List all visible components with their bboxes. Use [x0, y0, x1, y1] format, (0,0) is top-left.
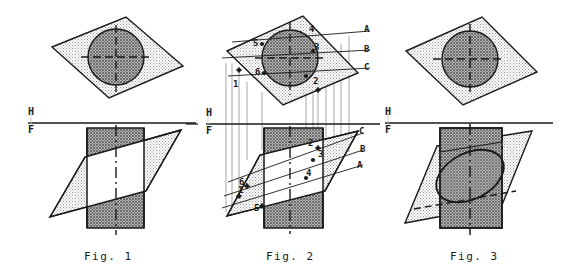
fig2-front-label-2: 2 — [308, 138, 315, 148]
fig2-top-label-3: 3 — [314, 42, 321, 52]
fig1-front-view — [50, 125, 181, 235]
fig2-front-label-5: 5 — [254, 203, 261, 213]
fig3-fold-label-f: F — [385, 124, 393, 135]
fig2-top-label-5: 5 — [253, 38, 260, 48]
fig2-front-label-b: B — [360, 144, 367, 154]
fig2-top-label-4: 4 — [309, 24, 316, 34]
fig2-front-label-4: 4 — [306, 168, 313, 178]
fig2-top-label-c: C — [364, 62, 371, 72]
fig1-fold-label-f: F — [28, 124, 36, 135]
fig2-top-point-5 — [260, 42, 264, 46]
drawing-plate: H F H F H F 1 2 3 4 5 6 A B C 1 2 3 4 5 … — [0, 0, 576, 279]
fig3-caption: Fig. 3 — [450, 250, 499, 263]
figure-3 — [385, 17, 553, 235]
fig2-top-label-6: 6 — [255, 67, 262, 77]
fig2-front-label-3: 3 — [318, 149, 325, 159]
plate-canvas — [0, 0, 576, 279]
fig2-front-point-3 — [311, 158, 315, 162]
fig1-caption: Fig. 1 — [84, 250, 133, 263]
fig2-front-label-a: A — [357, 160, 364, 170]
fig2-top-label-b: B — [364, 44, 371, 54]
fig2-front-label-c: C — [359, 126, 366, 136]
fig1-top-view — [52, 17, 183, 98]
fig2-fold-label-h: H — [206, 107, 214, 118]
fig2-top-point-4 — [304, 74, 308, 78]
fig2-caption: Fig. 2 — [266, 250, 315, 263]
fig2-top-label-a: A — [364, 24, 371, 34]
fig3-front-view — [405, 124, 532, 235]
fig3-top-view — [406, 17, 537, 105]
fig3-fold-label-h: H — [385, 106, 393, 117]
fig2-top-point-6 — [262, 71, 266, 75]
figure-1 — [28, 17, 196, 235]
fig2-fold-label-f: F — [206, 125, 214, 136]
fig1-fold-label-h: H — [28, 106, 36, 117]
fig2-top-label-1: 1 — [233, 79, 240, 89]
fig2-top-view — [222, 16, 370, 105]
figure-2 — [186, 16, 380, 234]
fig2-front-label-6: 6 — [239, 177, 246, 187]
fig2-top-label-2: 2 — [313, 76, 320, 86]
